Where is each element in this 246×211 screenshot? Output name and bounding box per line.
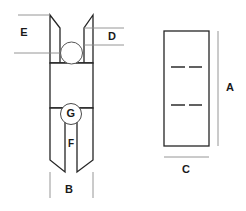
technical-drawing-canvas: G F E D B A bbox=[0, 0, 246, 211]
pulley-dimension-diagram: G F E D B A bbox=[0, 0, 246, 211]
dim-label-b: B bbox=[65, 183, 73, 195]
dim-label-e: E bbox=[20, 26, 28, 38]
front-section-view: G F E D B bbox=[14, 15, 124, 198]
pulley-middle-web-band bbox=[50, 63, 93, 108]
dim-label-g: G bbox=[67, 107, 76, 119]
dim-label-c: C bbox=[182, 163, 190, 175]
hub-bore-circle bbox=[61, 42, 83, 64]
dim-label-d: D bbox=[108, 30, 116, 42]
side-view-outline bbox=[164, 31, 209, 146]
side-view: A C bbox=[164, 31, 234, 175]
dim-label-f: F bbox=[68, 138, 74, 149]
dim-label-a: A bbox=[226, 81, 234, 93]
